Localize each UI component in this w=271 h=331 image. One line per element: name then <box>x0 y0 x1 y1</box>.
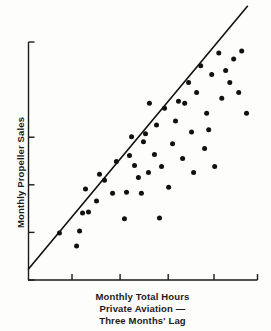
data-point <box>186 80 191 85</box>
data-point <box>114 159 119 164</box>
x-axis-title-line-2: Private Aviation — <box>28 303 257 315</box>
data-point <box>244 111 249 116</box>
data-point <box>170 141 175 146</box>
y-axis-title: Monthly Propeller Sales <box>14 68 28 228</box>
data-point <box>124 190 129 195</box>
data-point <box>173 119 178 124</box>
data-point <box>110 191 115 196</box>
data-point <box>132 163 137 168</box>
data-points <box>57 49 249 249</box>
data-point <box>157 215 162 220</box>
data-point <box>231 56 236 61</box>
data-point <box>236 90 241 95</box>
trend-line <box>29 6 248 269</box>
data-point <box>143 131 148 136</box>
data-point <box>182 101 187 106</box>
data-point <box>136 175 141 180</box>
data-point <box>166 185 171 190</box>
data-point <box>139 191 144 196</box>
x-axis-ticks <box>72 274 257 280</box>
data-point <box>227 80 232 85</box>
data-point <box>141 139 146 144</box>
scatter-plot-figure: Monthly Propeller Sales Monthly Total Ho… <box>0 0 271 331</box>
data-point <box>97 172 102 177</box>
axes <box>28 42 258 281</box>
data-point <box>77 228 82 233</box>
data-point <box>194 90 199 95</box>
data-point <box>147 101 152 106</box>
data-point <box>198 63 203 68</box>
data-point <box>94 198 99 203</box>
data-point <box>102 178 107 183</box>
data-point <box>152 152 157 157</box>
data-point <box>176 99 181 104</box>
data-point <box>223 68 228 73</box>
data-point <box>86 209 91 214</box>
data-point <box>129 134 134 139</box>
data-point <box>206 127 211 132</box>
data-point <box>191 170 196 175</box>
data-point <box>216 50 221 55</box>
data-point <box>80 210 85 215</box>
plot-canvas <box>0 0 271 331</box>
x-axis-title-line-3: Three Months' Lag <box>28 315 257 327</box>
data-point <box>146 170 151 175</box>
data-point <box>154 123 159 128</box>
data-point <box>74 243 79 248</box>
data-point <box>180 156 185 161</box>
data-point <box>204 111 209 116</box>
data-point <box>57 231 62 236</box>
data-point <box>189 129 194 134</box>
data-point <box>83 187 88 192</box>
x-axis-title-line-1: Monthly Total Hours <box>28 291 257 303</box>
regression-line <box>29 6 248 269</box>
data-point <box>159 164 164 169</box>
data-point <box>212 164 217 169</box>
data-point <box>219 96 224 101</box>
x-axis-title: Monthly Total Hours Private Aviation — T… <box>28 291 257 328</box>
data-point <box>202 146 207 151</box>
data-point <box>239 49 244 54</box>
y-axis-ticks <box>29 42 35 280</box>
data-point <box>122 216 127 221</box>
data-point <box>209 72 214 77</box>
data-point <box>162 106 167 111</box>
data-point <box>127 153 132 158</box>
